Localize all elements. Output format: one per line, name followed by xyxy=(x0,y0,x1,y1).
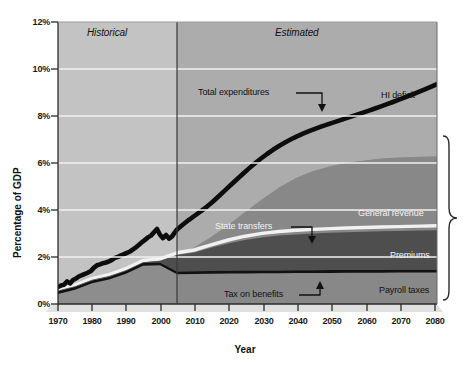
annotation-premiums: Premiums xyxy=(390,250,430,260)
axis-base-shadow xyxy=(50,304,443,312)
annotation-hi-deficit: HI deficit xyxy=(381,90,415,100)
chart-svg xyxy=(0,0,465,366)
revenue-brace xyxy=(443,136,457,300)
plot-clip-group xyxy=(58,22,437,304)
region-label-historical: Historical xyxy=(87,27,127,38)
chart-figure: Percentage of GDP 12% 10% 8% 6% 4% 2% 0%… xyxy=(0,0,465,366)
annotation-state-transfers: State transfers xyxy=(215,221,272,231)
plot-area xyxy=(0,0,465,366)
annotation-payroll-taxes: Payroll taxes xyxy=(379,285,429,295)
region-label-estimated: Estimated xyxy=(275,27,319,38)
annotation-total-expenditures: Total expenditures xyxy=(198,87,269,97)
annotation-general-revenue: General revenue xyxy=(358,208,424,218)
y-ticks xyxy=(51,22,58,304)
annotation-tax-on-benefits: Tax on benefits xyxy=(224,289,283,299)
